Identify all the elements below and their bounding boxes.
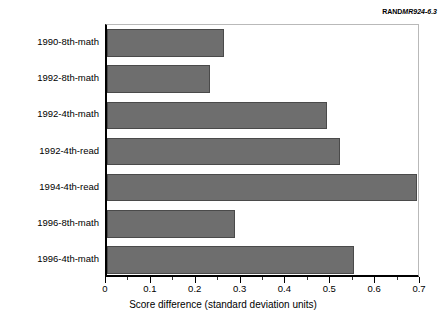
bar (107, 29, 224, 56)
x-tick-label: 0.5 (323, 283, 336, 295)
plot-area (105, 24, 419, 277)
bar (107, 210, 235, 237)
rand-document-number: MR924-6.3 (402, 8, 437, 15)
x-axis-tick-labels: 00.10.20.30.40.50.60.7 (0, 283, 446, 297)
rand-brand-text: RAND (382, 8, 402, 15)
bar-row (107, 138, 418, 165)
x-tick-label: 0.1 (143, 283, 156, 295)
bar-row (107, 102, 418, 129)
category-label: 1992-4th-read (0, 145, 99, 156)
category-label: 1996-8th-math (0, 217, 99, 228)
figure: RANDMR924-6.3 1990-8th-math1992-8th-math… (0, 0, 446, 332)
bar (107, 246, 354, 273)
x-tick-minor (397, 277, 398, 280)
x-axis-title: Score difference (standard deviation uni… (0, 299, 446, 310)
bar-row (107, 174, 418, 201)
rand-document-credit: RANDMR924-6.3 (382, 7, 437, 16)
x-tick-minor (217, 277, 218, 280)
bar (107, 138, 340, 165)
bar (107, 65, 210, 92)
x-tick-minor (127, 277, 128, 280)
x-tick-minor (352, 277, 353, 280)
x-tick-minor (307, 277, 308, 280)
x-tick-label: 0.4 (278, 283, 291, 295)
category-label: 1992-4th-math (0, 108, 99, 119)
category-label: 1994-4th-read (0, 181, 99, 192)
x-tick-label: 0.7 (412, 283, 425, 295)
x-tick-label: 0.2 (188, 283, 201, 295)
bar-row (107, 210, 418, 237)
x-tick-minor (172, 277, 173, 280)
category-label: 1990-8th-math (0, 36, 99, 47)
category-label: 1992-8th-math (0, 72, 99, 83)
x-tick-label: 0.3 (233, 283, 246, 295)
bar-row (107, 65, 418, 92)
bar (107, 102, 327, 129)
x-tick-minor (262, 277, 263, 280)
bar-row (107, 29, 418, 56)
bar-row (107, 246, 418, 273)
category-label: 1996-4th-math (0, 253, 99, 264)
bar (107, 174, 417, 201)
category-axis-labels: 1990-8th-math1992-8th-math1992-4th-math1… (0, 24, 99, 277)
x-tick-label: 0.6 (368, 283, 381, 295)
x-tick-label: 0 (102, 283, 107, 295)
bar-series (107, 25, 418, 275)
